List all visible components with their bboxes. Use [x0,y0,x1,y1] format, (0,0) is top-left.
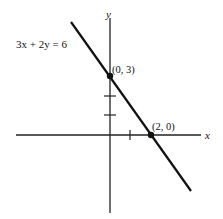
x-axis-label: x [204,129,210,141]
line-graph: 3x + 2y = 6 y x (0, 3) (2, 0) [0,0,223,219]
point-2-0 [148,132,154,138]
equation-line [71,22,191,191]
point-a-label: (0, 3) [112,64,135,76]
equation-label: 3x + 2y = 6 [16,38,67,50]
point-b-label: (2, 0) [152,121,175,133]
y-axis-label: y [105,8,111,20]
